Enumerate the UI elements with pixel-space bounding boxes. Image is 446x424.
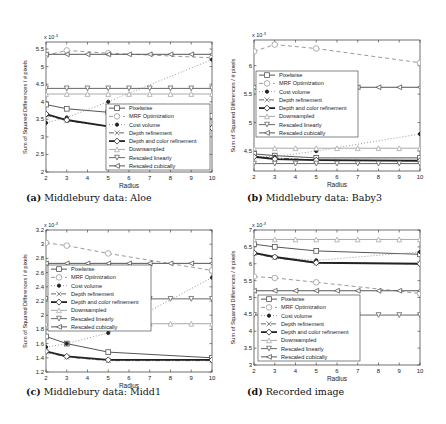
- square-marker: [106, 350, 111, 355]
- star-marker: [107, 100, 110, 103]
- triangle-left-marker: [397, 85, 402, 90]
- circle-marker: [64, 243, 70, 249]
- square-marker: [64, 106, 69, 111]
- star-marker: [107, 331, 110, 334]
- y-tick-label: 3.5: [36, 116, 45, 122]
- series-depth-and-color-refinement: [43, 348, 215, 363]
- y-tick-label: 6: [249, 63, 253, 69]
- triangle-left-marker: [293, 288, 298, 293]
- triangle-left-marker: [127, 52, 132, 57]
- legend-label: Depth and color refinement: [281, 329, 349, 335]
- x-tick-label: 2: [44, 175, 48, 181]
- chart-panel-a: 234567891022.533.544.555.5x 10-3RadiusSu…: [0, 0, 223, 212]
- legend-label: Rescaled linearly: [71, 316, 114, 322]
- triangle-left-marker: [168, 261, 173, 266]
- triangle-left-marker: [376, 85, 381, 90]
- series-rescaled-cubically: [252, 288, 423, 293]
- circle-marker: [209, 268, 215, 274]
- x-tick-label: 7: [148, 375, 152, 381]
- y-tick-label: 4.5: [36, 81, 45, 87]
- y-tick-label: 4: [41, 99, 45, 105]
- series-line: [254, 253, 420, 264]
- legend-label: Downsampled: [281, 337, 316, 343]
- star-marker: [267, 314, 270, 317]
- y-multiplier: x 10-3: [44, 221, 59, 229]
- series-downsampled: [252, 146, 423, 151]
- y-tick-label: 3: [41, 134, 45, 140]
- y-tick-label: 1.8: [36, 326, 45, 332]
- legend-item: Rescaled cubically: [259, 130, 326, 136]
- diamond-marker: [251, 250, 257, 256]
- diamond-marker: [64, 117, 70, 123]
- y-tick-label: 1.4: [36, 355, 45, 361]
- series-line: [254, 244, 420, 254]
- y-multiplier: x 10-3: [44, 33, 59, 41]
- legend-label: Rescaled linearly: [129, 155, 172, 161]
- star-marker: [210, 58, 213, 61]
- chart-b: 23456789104.555.56x 10-3RadiusSum of Squ…: [223, 0, 446, 212]
- series-rescaled-linearly: [252, 161, 423, 166]
- x-tick-label: 4: [294, 368, 298, 374]
- caption-a: (a) Middlebury data: Aloe: [26, 192, 152, 203]
- y-tick-label: 2.2: [36, 298, 45, 304]
- legend-label: Depth and color refinement: [279, 105, 347, 111]
- star-marker: [418, 132, 421, 135]
- circle-marker: [251, 274, 257, 280]
- series-downsampled: [252, 237, 423, 242]
- x-tick-label: 9: [190, 175, 194, 181]
- legend-label: Downsampled: [71, 307, 106, 313]
- y-axis-label: Sum of Squared Differences / # pixels: [22, 254, 28, 348]
- legend-label: Cost volume: [71, 283, 102, 289]
- legend-label: Pixelwise: [71, 266, 94, 272]
- series-line: [254, 45, 420, 63]
- series-line: [46, 337, 212, 358]
- legend-item: MRF Optimization: [261, 304, 326, 310]
- legend-label: Downsampled: [279, 113, 314, 119]
- x-tick-label: 9: [398, 174, 402, 180]
- legend-label: Depth and color refinement: [129, 138, 197, 144]
- legend-item: Pixelwise: [109, 105, 152, 111]
- caption-c: (c) Middlebury data: Midd1: [26, 386, 161, 397]
- y-tick-label: 2.4: [36, 284, 45, 290]
- y-tick-label: 2.5: [36, 151, 45, 157]
- legend-label: MRF Optimization: [129, 113, 174, 119]
- x-tick-label: 5: [107, 375, 111, 381]
- x-tick-label: 2: [252, 368, 256, 374]
- triangle-left-marker: [397, 288, 402, 293]
- x-tick-label: 4: [86, 375, 90, 381]
- legend-label: Depth refinement: [129, 130, 172, 136]
- square-marker: [252, 242, 257, 247]
- x-tick-label: 3: [273, 174, 277, 180]
- legend-item: Pixelwise: [51, 266, 94, 272]
- x-axis-label: Radius: [119, 182, 140, 189]
- x-tick-label: 8: [377, 368, 381, 374]
- series-downsampled: [44, 92, 215, 97]
- star-marker: [115, 123, 118, 126]
- x-tick-label: 10: [417, 174, 424, 180]
- series-rescaled-linearly: [44, 86, 215, 91]
- legend-item: MRF Optimization: [109, 113, 174, 119]
- triangle-left-marker: [189, 261, 194, 266]
- diamond-marker: [64, 353, 70, 359]
- triangle-left-marker: [189, 52, 194, 57]
- y-axis-label: Sum of Squared Differences / # pixels: [230, 58, 236, 152]
- legend-label: Cost volume: [281, 313, 312, 319]
- star-marker: [65, 342, 68, 345]
- y-tick-label: 2.6: [36, 270, 45, 276]
- star-marker: [265, 90, 268, 93]
- x-axis-label: Radius: [327, 375, 348, 382]
- x-axis-label: Radius: [327, 181, 348, 188]
- y-multiplier: x 10-3: [252, 31, 267, 39]
- x-tick-label: 8: [377, 174, 381, 180]
- y-tick-label: 4.5: [244, 311, 253, 317]
- legend-item: Downsampled: [261, 337, 316, 343]
- legend-label: Rescaled cubically: [279, 130, 326, 136]
- legend-label: Rescaled cubically: [129, 163, 176, 169]
- legend-label: MRF Optimization: [281, 304, 326, 310]
- triangle-left-marker: [314, 288, 319, 293]
- chart-panel-c: 23456789101.21.41.61.822.22.42.62.833.2x…: [0, 212, 223, 424]
- legend-item: Downsampled: [259, 113, 314, 119]
- legend-label: Pixelwise: [281, 296, 304, 302]
- caption-d: (d) Recorded image: [247, 386, 344, 397]
- legend-label: Depth refinement: [279, 97, 322, 103]
